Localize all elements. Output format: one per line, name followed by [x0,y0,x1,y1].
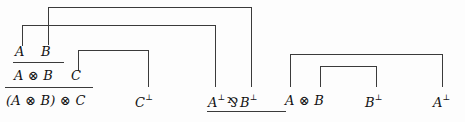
axiom-link-right-inner-horizontal [320,66,376,67]
term-A-top: A [15,45,25,58]
term-A-tensor-B: A ⊗ B [14,69,53,82]
axiom-link-outer-left-leg [48,7,49,45]
axiom-link-outer-horizontal [48,7,252,8]
axiom-link-outer-right-leg [251,7,252,87]
par-operator-icon: ⅋ [225,95,240,110]
proof-net-figure: A B A ⊗ B C (A ⊗ B) ⊗ C C⊥ A⊥⅋B⊥ A ⊗ B B… [0,0,465,122]
term-A-tensor-B-right: A ⊗ B [285,94,324,107]
inference-rule-bar-par [207,111,286,112]
axiom-link-inner-horizontal [22,25,216,26]
axiom-link-right-outer-horizontal [290,54,443,55]
axiom-link-right-inner-right-leg [376,66,377,87]
term-C: C [71,69,81,82]
inference-rule-bar-tensor1 [13,62,64,63]
term-A-perp-par-B-perp: A⊥⅋B⊥ [208,94,257,109]
term-C-perp: C⊥ [135,94,153,109]
axiom-link-right-outer-left-leg [290,54,291,87]
axiom-link-right-outer-right-leg [442,54,443,87]
axiom-link-inner-right-leg [215,25,216,87]
axiom-link-c-horizontal [78,50,149,51]
inference-rule-bar-tensor2 [5,87,93,88]
term-A-perp-right: A⊥ [433,94,450,109]
axiom-link-c-right-leg [148,50,149,87]
axiom-link-right-inner-left-leg [320,66,321,87]
term-conclusion-left: (A ⊗ B) ⊗ C [6,94,86,107]
term-B-top: B [41,45,51,58]
axiom-link-inner-left-leg [22,25,23,46]
term-B-perp-right: B⊥ [365,94,382,109]
